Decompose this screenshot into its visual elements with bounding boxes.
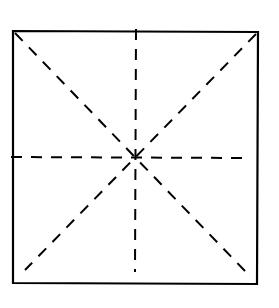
horizontal-dashed-line <box>11 157 246 158</box>
diagonal-dashed-line-tr-bl <box>25 34 256 270</box>
square-symmetry-diagram <box>0 0 279 308</box>
diagonal-dashed-line-tl-br <box>15 33 245 271</box>
vertical-dashed-line <box>135 29 136 272</box>
